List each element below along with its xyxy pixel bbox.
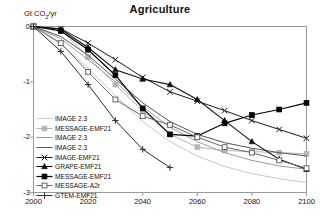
legend-marker-icon xyxy=(36,133,53,142)
data-point-marker xyxy=(222,108,228,114)
data-point-marker xyxy=(277,107,282,112)
data-point-marker xyxy=(249,139,255,144)
data-point-marker xyxy=(167,164,173,170)
data-point-marker xyxy=(113,57,119,63)
legend-item-8[interactable]: GTEM-EMF21 xyxy=(36,191,111,201)
data-point-marker xyxy=(277,158,282,163)
data-point-marker xyxy=(58,29,63,34)
data-point-marker xyxy=(140,114,145,119)
legend-marker-icon xyxy=(36,153,53,162)
x-tick-label-2040: 2040 xyxy=(130,197,156,206)
data-point-marker xyxy=(42,184,47,189)
legend-item-2[interactable]: IMAGE 2.3 xyxy=(36,133,111,143)
legend-item-5[interactable]: GRAPE-EMF21 xyxy=(36,162,111,172)
data-point-marker xyxy=(222,121,227,126)
legend-marker-icon xyxy=(36,143,53,152)
legend-label: MESSAGE-EMF21 xyxy=(55,173,111,180)
data-point-marker xyxy=(113,97,118,102)
data-point-marker xyxy=(168,132,173,137)
legend-item-7[interactable]: MESSAGE-A2r xyxy=(36,181,111,191)
data-point-marker xyxy=(113,73,118,78)
data-point-marker xyxy=(276,127,282,133)
x-tick-label-2100: 2100 xyxy=(294,197,320,206)
y-axis-label-pre: Gt CO xyxy=(24,9,45,18)
data-point-marker xyxy=(140,106,145,111)
data-point-marker xyxy=(249,118,255,124)
legend-item-0[interactable]: IMAGE 2.3 xyxy=(36,114,111,124)
legend-marker-icon xyxy=(36,172,53,181)
chart-root: Agriculture Gt CO2/yr 200020202040206020… xyxy=(0,0,320,222)
data-point-marker xyxy=(195,145,200,150)
data-point-marker xyxy=(41,192,47,198)
x-tick-label-2060: 2060 xyxy=(184,197,210,206)
data-point-marker xyxy=(304,100,309,105)
data-point-marker xyxy=(250,150,255,155)
data-point-marker xyxy=(250,113,255,118)
data-point-marker xyxy=(167,89,173,95)
legend-item-4[interactable]: IMAGE-EMF21 xyxy=(36,152,111,162)
data-point-marker xyxy=(86,47,91,52)
legend-item-1[interactable]: MESSAGE-EMF21 xyxy=(36,124,111,134)
y-axis-label: Gt CO2/yr xyxy=(24,9,57,20)
y-axis-label-post: /yr xyxy=(48,9,56,18)
legend-marker-icon xyxy=(36,181,53,190)
x-tick-label-2080: 2080 xyxy=(239,197,265,206)
legend-label: IMAGE-EMF21 xyxy=(55,154,100,161)
y-tick-label-neg3: -3 xyxy=(14,188,30,197)
legend-marker-icon xyxy=(36,114,53,123)
data-point-marker xyxy=(58,41,63,46)
chart-legend: IMAGE 2.3MESSAGE-EMF21IMAGE 2.3IMAGE 2.3… xyxy=(36,114,111,200)
data-point-marker xyxy=(195,135,200,140)
legend-label: MESSAGE-A2r xyxy=(55,182,100,189)
y-tick-label-neg2: -2 xyxy=(14,132,30,141)
legend-item-6[interactable]: MESSAGE-EMF21 xyxy=(36,172,111,182)
legend-item-3[interactable]: IMAGE 2.3 xyxy=(36,143,111,153)
legend-label: IMAGE 2.3 xyxy=(55,134,87,141)
legend-label: GRAPE-EMF21 xyxy=(55,163,102,170)
legend-label: MESSAGE-EMF21 xyxy=(55,125,111,132)
data-point-marker xyxy=(86,69,91,74)
y-tick-label-0: 0 xyxy=(14,22,30,31)
legend-label: IMAGE 2.3 xyxy=(55,144,87,151)
data-point-marker xyxy=(222,145,227,150)
data-point-marker xyxy=(304,166,309,171)
legend-label: GTEM-EMF21 xyxy=(55,192,98,199)
legend-marker-icon xyxy=(36,191,53,200)
legend-label: IMAGE 2.3 xyxy=(55,115,87,122)
data-point-marker xyxy=(168,123,173,128)
data-point-marker xyxy=(42,126,47,131)
legend-marker-icon xyxy=(36,162,53,171)
data-point-marker xyxy=(42,174,47,179)
legend-marker-icon xyxy=(36,124,53,133)
y-tick-label-neg1: -1 xyxy=(14,77,30,86)
